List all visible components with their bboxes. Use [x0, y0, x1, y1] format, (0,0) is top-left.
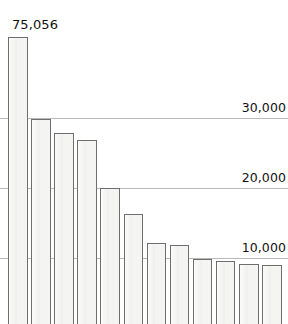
usa-value-label: 75,056 — [12, 18, 58, 31]
y-tick-label-10000: 10,000 — [242, 242, 286, 255]
plot-area: 10,00020,00030,000 75,056 USAItalyFrance… — [0, 0, 288, 324]
x-label-poland: Poland — [0, 276, 278, 324]
y-tick-label-30000: 30,000 — [242, 102, 286, 115]
bar-chart: 10,00020,00030,000 75,056 USAItalyFrance… — [0, 0, 288, 324]
y-tick-label-20000: 20,000 — [242, 172, 286, 185]
